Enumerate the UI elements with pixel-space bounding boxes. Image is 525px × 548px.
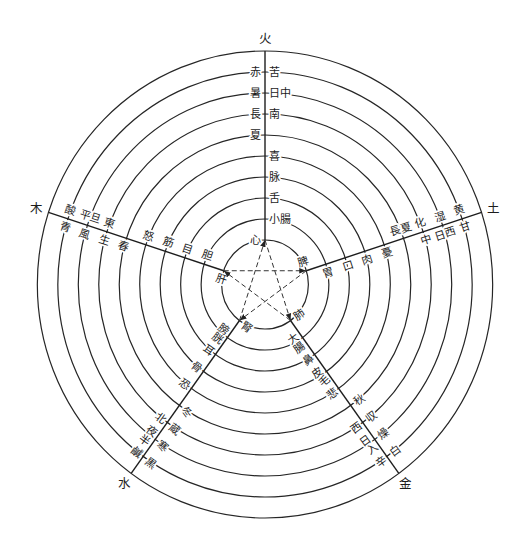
label-fire-direction: 南 xyxy=(269,108,280,121)
label-fire-tissue: 脉 xyxy=(269,170,280,184)
label-fire-fu: 小腸 xyxy=(269,213,291,226)
label-fire-emotion: 喜 xyxy=(269,150,280,163)
label-fire-season: 夏 xyxy=(250,129,261,142)
label-fire-zang: 心 xyxy=(250,234,261,247)
label-fire-climate: 暑 xyxy=(250,87,261,100)
label-fire-color: 赤 xyxy=(250,66,261,79)
label-fire-sense-organ: 舌 xyxy=(269,192,280,205)
label-fire-taste: 苦 xyxy=(269,66,280,79)
label-fire-phase: 長 xyxy=(250,108,261,121)
label-fire-time: 日中 xyxy=(269,87,291,100)
element-label-fire: 火 xyxy=(259,31,272,46)
element-label-metal: 金 xyxy=(399,476,412,491)
element-label-water: 水 xyxy=(118,476,131,491)
element-label-earth: 土 xyxy=(487,201,500,216)
five-elements-diagram: 赤暑長夏心苦日中南喜脉舌小腸黄湿化長夏脾甘日西中憂肉口胃白燥収秋肺辛日入西悲皮毛… xyxy=(0,0,525,548)
element-label-wood: 木 xyxy=(30,201,43,216)
